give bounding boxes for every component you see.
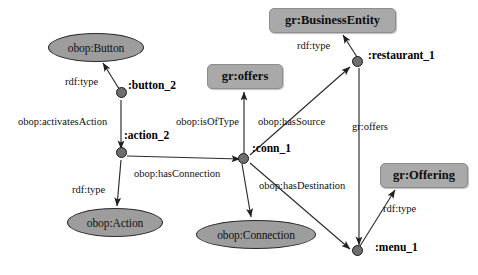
- edge-label-obop-isoftype: obop:isOfType: [176, 116, 239, 127]
- edge-label-rdf-type-button: rdf:type: [65, 76, 98, 87]
- instance-node-conn-1[interactable]: [238, 153, 249, 164]
- instance-label-menu-1: :menu_1: [375, 241, 418, 253]
- class-node-obop-connection[interactable]: obop:Connection: [196, 220, 316, 249]
- edge-label-obop-activatesaction: obop:activatesAction: [18, 116, 107, 127]
- edge-label-rdf-type-menu: rdf:type: [383, 203, 416, 214]
- instance-label-action-2: :action_2: [124, 129, 169, 141]
- edge-label-obop-hassource: obop:hasSource: [258, 116, 325, 127]
- edge-e8: [242, 164, 251, 217]
- edge-e4: [127, 156, 240, 159]
- class-node-obop-button[interactable]: obop:Button: [48, 33, 144, 62]
- edge-label-obop-hasconnection: obop:hasConnection: [134, 168, 220, 179]
- instance-node-menu-1[interactable]: [352, 245, 363, 256]
- class-node-obop-action[interactable]: obop:Action: [67, 208, 163, 237]
- instance-node-action-2[interactable]: [116, 147, 127, 158]
- edge-e11: [360, 190, 395, 246]
- edge-e3: [117, 160, 121, 206]
- class-node-gr-businessentity[interactable]: gr:BusinessEntity: [269, 8, 396, 33]
- edge-label-rdf-type-restaurant: rdf:type: [297, 40, 330, 51]
- edge-e9: [343, 35, 357, 57]
- edge-label-gr-offers: gr:offers: [352, 121, 388, 132]
- edge-label-obop-hasdestination: obop:hasDestination: [259, 180, 345, 191]
- instance-node-button-2[interactable]: [116, 87, 127, 98]
- instance-label-restaurant-1: :restaurant_1: [368, 49, 435, 61]
- instance-label-button-2: :button_2: [128, 79, 176, 91]
- rdf-graph-diagram: obop:Button obop:Action obop:Connection …: [0, 0, 478, 275]
- instance-node-restaurant-1[interactable]: [352, 56, 363, 67]
- edge-label-rdf-type-action: rdf:type: [72, 184, 105, 195]
- instance-label-conn-1: :conn_1: [252, 142, 291, 154]
- class-node-gr-offers[interactable]: gr:offers: [207, 64, 283, 89]
- class-node-gr-offering[interactable]: gr:Offering: [380, 163, 468, 188]
